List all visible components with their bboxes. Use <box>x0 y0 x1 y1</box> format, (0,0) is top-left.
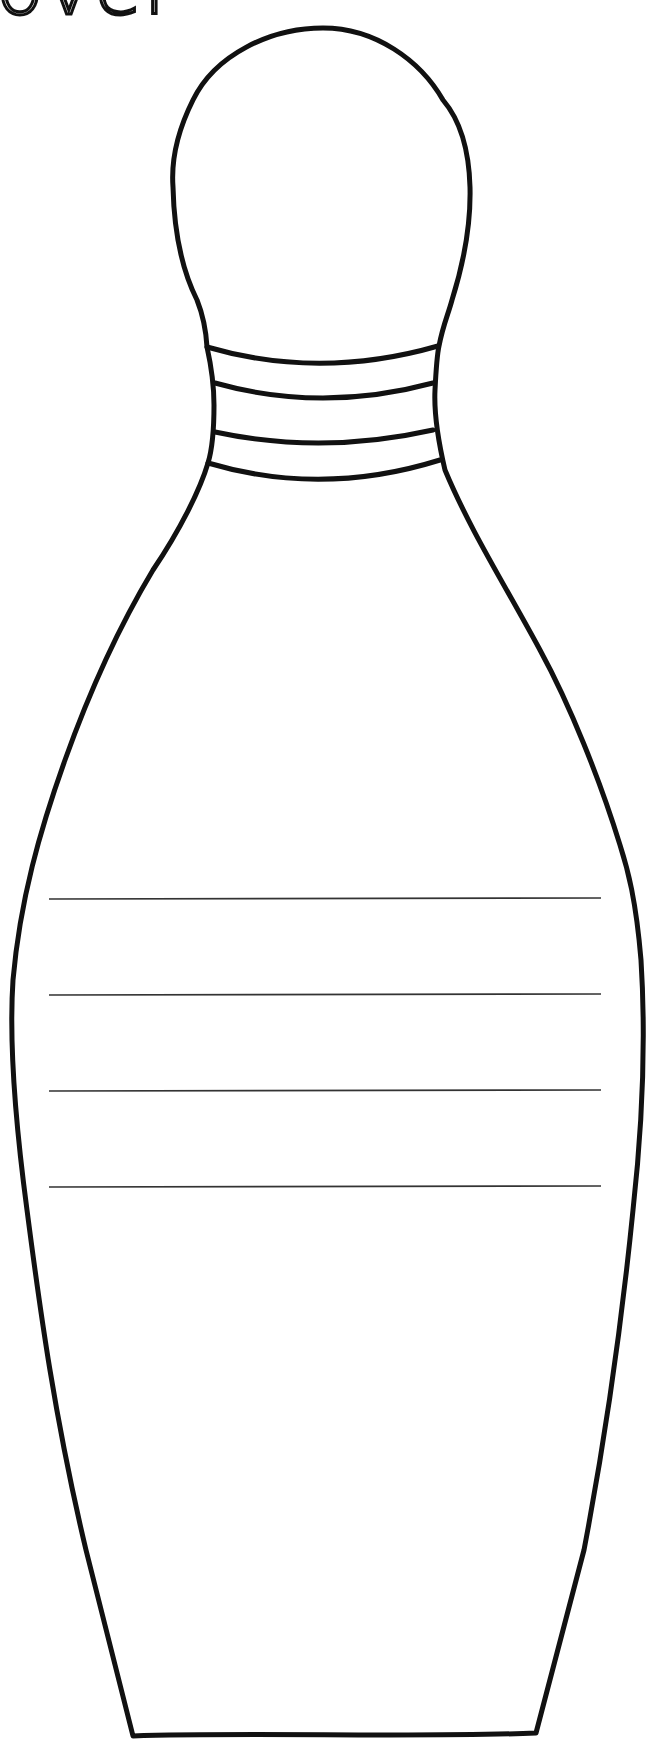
bowling-pin-drawing <box>0 0 657 1763</box>
bowling-pin-outline <box>12 28 644 1736</box>
writing-line-4 <box>49 1186 601 1187</box>
writing-line-3 <box>49 1090 601 1091</box>
writing-line-2 <box>49 994 601 995</box>
writing-line-1 <box>49 898 601 899</box>
